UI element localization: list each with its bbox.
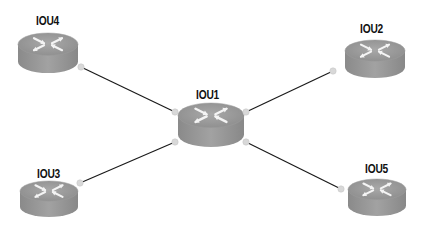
link-iou5-iou1[interactable]: [246, 142, 341, 189]
router-icon: [178, 103, 244, 147]
link-iou4-iou1[interactable]: [81, 67, 175, 112]
router-icon: [20, 181, 78, 217]
port-dot[interactable]: [243, 109, 249, 115]
port-dot[interactable]: [243, 139, 249, 145]
port-dot[interactable]: [172, 109, 178, 115]
router-icon: [348, 179, 406, 216]
node-label-iou5: IOU5: [365, 162, 388, 176]
port-dot[interactable]: [338, 186, 344, 192]
link-iou2-iou1[interactable]: [246, 71, 333, 112]
port-dot[interactable]: [78, 64, 84, 70]
node-iou4[interactable]: [18, 33, 78, 73]
node-label-iou4: IOU4: [36, 14, 59, 28]
port-dot[interactable]: [330, 68, 336, 74]
router-icon: [345, 40, 405, 78]
router-icon: [18, 33, 78, 73]
nodes-layer: [18, 33, 406, 217]
topology-canvas: [0, 0, 422, 232]
link-iou3-iou1[interactable]: [80, 142, 175, 183]
node-iou2[interactable]: [345, 40, 405, 78]
port-dot[interactable]: [77, 180, 83, 186]
node-label-iou3: IOU3: [37, 167, 60, 181]
node-label-iou2: IOU2: [360, 22, 383, 36]
node-label-iou1: IOU1: [196, 88, 219, 102]
port-dot[interactable]: [172, 139, 178, 145]
node-iou5[interactable]: [348, 179, 406, 216]
node-iou3[interactable]: [20, 181, 78, 217]
node-iou1[interactable]: [178, 103, 244, 147]
